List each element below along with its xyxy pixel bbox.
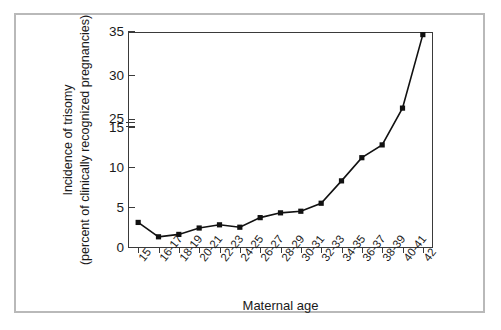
y-tick-label-25: 25 [98,112,124,126]
y-axis-title: Incidence of trisomy (percent of clinica… [52,32,98,248]
data-point-34-35 [339,178,344,183]
data-point-40-41 [400,106,405,111]
x-axis-title: Maternal age [128,298,433,313]
y-axis-title-line-2: (percent of clinically recognized pregna… [78,15,92,265]
data-point-42 [420,32,425,37]
data-series-plot [128,32,433,248]
data-point-24-25 [237,225,242,230]
data-point-28-29 [278,210,283,215]
y-axis-tick-labels: 051015253035 [94,0,124,330]
data-point-26-27 [258,215,263,220]
data-point-20-21 [197,225,202,230]
data-point-32-33 [319,201,324,206]
y-tick-label-5: 5 [98,201,124,215]
y-tick-label-10: 10 [98,161,124,175]
data-point-15 [136,220,141,225]
data-point-16-17 [156,234,161,239]
data-point-18-19 [176,232,181,237]
figure-container: 051015253035 Incidence of trisomy (perce… [0,0,501,330]
trisomy-incidence-line [138,35,423,237]
data-point-22-23 [217,222,222,227]
y-tick-label-0: 0 [98,241,124,255]
data-point-30-31 [298,209,303,214]
trisomy-incidence-markers [136,32,426,239]
data-point-36-37 [359,155,364,160]
y-tick-label-30: 30 [98,69,124,83]
y-tick-label-35: 35 [98,25,124,39]
y-axis-title-line-1: Incidence of trisomy [61,84,75,195]
data-point-38-39 [380,142,385,147]
